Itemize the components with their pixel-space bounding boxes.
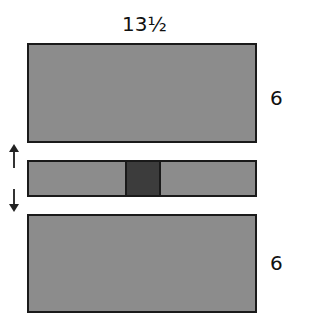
top-panel	[27, 43, 257, 143]
bottom-height-label: 6	[270, 253, 283, 273]
top-width-label: 13½	[122, 14, 167, 34]
bottom-panel	[27, 214, 257, 313]
middle-strip	[27, 160, 257, 197]
center-block	[125, 162, 161, 195]
top-height-label: 6	[270, 88, 283, 108]
